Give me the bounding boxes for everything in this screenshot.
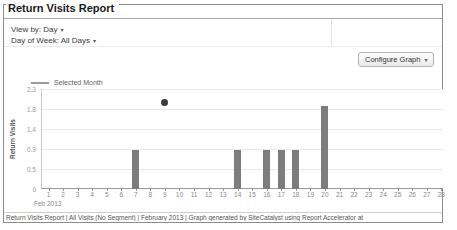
- y-tick-label: 0.5: [27, 166, 36, 173]
- chart-legend: Selected Month: [31, 79, 103, 86]
- x-tick-label: 20: [321, 191, 328, 198]
- bar-day-7: [132, 150, 139, 189]
- x-axis-month-label: Feb 2013: [34, 200, 61, 207]
- x-tick-label: 12: [205, 191, 212, 198]
- x-tick-label: 5: [105, 191, 109, 198]
- gridline: [42, 129, 443, 130]
- x-tick-label: 7: [134, 191, 138, 198]
- x-tick-label: 23: [365, 191, 372, 198]
- report-screen: Return Visits Report View by: Day ▾ Day …: [0, 0, 457, 230]
- filters-bottom-divider: [4, 46, 442, 47]
- x-tick-label: 28: [438, 191, 445, 198]
- x-tick-label: 17: [278, 191, 285, 198]
- x-tick-label: 4: [90, 191, 94, 198]
- footer-divider: [4, 212, 442, 213]
- y-tick-label: 2.3: [27, 86, 36, 93]
- x-tick-label: 1: [47, 191, 51, 198]
- filter-divider: [331, 19, 332, 46]
- x-tick-label: 14: [234, 191, 241, 198]
- point-marker-day-9: [161, 99, 168, 106]
- day-of-week-label: Day of Week: All Days: [11, 36, 90, 45]
- x-tick-label: 15: [249, 191, 256, 198]
- x-tick-label: 10: [176, 191, 183, 198]
- gridline: [42, 109, 443, 110]
- y-tick-label: 1.8: [27, 106, 36, 113]
- x-tick-label: 19: [307, 191, 314, 198]
- bar-chart-plot-area: 1234567891011121314151617181920212223242…: [41, 89, 443, 189]
- x-tick-label: 9: [163, 191, 167, 198]
- legend-line-swatch: [31, 82, 49, 84]
- filter-bar: View by: Day ▾ Day of Week: All Days ▾: [11, 24, 96, 46]
- legend-label: Selected Month: [54, 79, 103, 86]
- bar-day-16: [263, 150, 270, 189]
- view-by-dropdown[interactable]: View by: Day ▾: [11, 24, 96, 35]
- gridline: [42, 169, 443, 170]
- bar-day-20: [321, 106, 328, 189]
- x-tick-label: 6: [119, 191, 123, 198]
- view-by-label: View by: Day: [11, 25, 58, 34]
- x-tick-label: 22: [350, 191, 357, 198]
- x-tick-label: 8: [149, 191, 153, 198]
- x-tick-label: 21: [336, 191, 343, 198]
- gridline: [42, 149, 443, 150]
- chevron-down-icon: ▾: [61, 27, 64, 33]
- y-tick-label: 0.9: [27, 146, 36, 153]
- x-tick-label: 2: [61, 191, 65, 198]
- page-title: Return Visits Report: [6, 2, 119, 14]
- x-tick-label: 3: [76, 191, 80, 198]
- x-tick-label: 25: [394, 191, 401, 198]
- x-tick-label: 18: [292, 191, 299, 198]
- y-tick-label: 0: [32, 186, 36, 193]
- chevron-down-icon: ▾: [424, 57, 427, 63]
- bar-day-18: [292, 150, 299, 189]
- day-of-week-dropdown[interactable]: Day of Week: All Days ▾: [11, 35, 96, 46]
- title-divider: [4, 18, 442, 19]
- report-panel: Return Visits Report View by: Day ▾ Day …: [3, 4, 443, 223]
- chevron-down-icon: ▾: [93, 38, 96, 44]
- bar-day-17: [278, 150, 285, 189]
- x-tick-label: 26: [409, 191, 416, 198]
- y-axis-ticks: 2.31.81.40.90.50: [4, 89, 38, 189]
- y-tick-label: 1.4: [27, 126, 36, 133]
- report-footer: Return Visits Report | All Visits (No Se…: [6, 214, 440, 221]
- x-tick-label: 13: [219, 191, 226, 198]
- configure-graph-label: Configure Graph: [365, 55, 420, 64]
- gridline: [42, 89, 443, 90]
- configure-graph-button[interactable]: Configure Graph ▾: [358, 52, 434, 67]
- x-tick-label: 24: [380, 191, 387, 198]
- x-tick-label: 11: [191, 191, 198, 198]
- x-tick-label: 27: [423, 191, 430, 198]
- bar-day-14: [234, 150, 241, 189]
- x-tick-label: 16: [263, 191, 270, 198]
